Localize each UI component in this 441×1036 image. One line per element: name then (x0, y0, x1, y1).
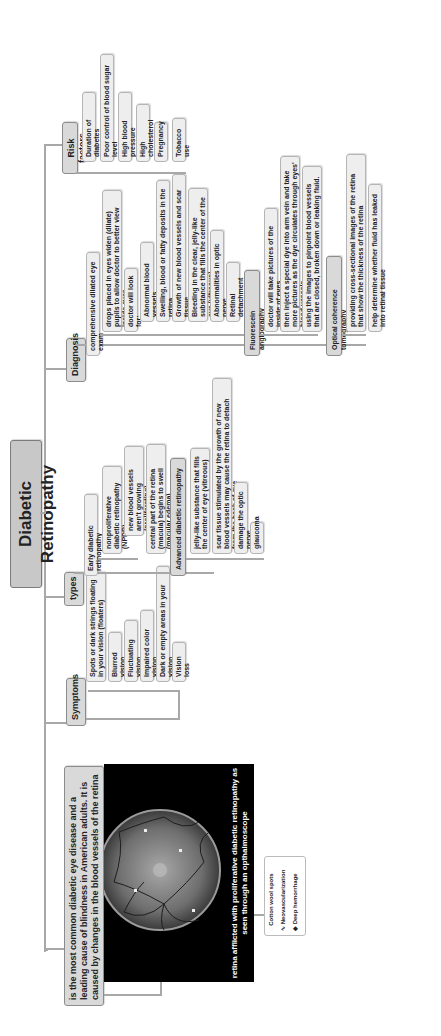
root-node[interactable]: Diabetic Retinopathy (10, 440, 42, 588)
dilated-bleeding[interactable]: Bleeding in the clear, jelly-like substa… (188, 188, 208, 322)
type-early-no-proliferation[interactable]: new blood vessels aren't growing (prolif… (124, 446, 144, 536)
root-connector (40, 512, 46, 514)
symptom-floaters[interactable]: Spots or dark strings floating in your v… (86, 572, 106, 682)
type-advanced-optic-nerve[interactable]: damage the optic nerve (234, 482, 248, 554)
risk-blood-sugar[interactable]: Poor control of blood sugar level (100, 54, 114, 162)
legend-item-deep-hemorrhage: ◆ Deep hemorrhage (289, 857, 301, 935)
type-early-macular-edema[interactable]: central part of the retina (macula) begi… (146, 444, 166, 554)
symptom-vision-loss[interactable]: Vision loss (172, 642, 186, 682)
dilated-drops[interactable]: drops placed in eyes widen (dilate) pupi… (102, 190, 122, 332)
risk-pregnancy[interactable]: Pregnancy (154, 122, 168, 162)
angiography-pinpoint[interactable]: using the images to pinpoint blood vesse… (302, 166, 322, 332)
hemorrhage-icon: ◆ (292, 926, 298, 931)
image-caption: retina afflicted with proliferative diab… (230, 766, 250, 980)
mind-map-canvas: Diabetic Retinopathy is the most common … (0, 0, 441, 1036)
type-advanced[interactable]: Advanced diabetic retinopathy (170, 458, 186, 576)
oct-cross-section[interactable]: providing cross-sectional images of the … (346, 154, 366, 332)
dilated-abnormal-vessels[interactable]: Abnormal blood vessels (140, 242, 154, 322)
dilated-look-for[interactable]: doctor will look for: (124, 268, 138, 332)
risk-blood-pressure[interactable]: High blood pressure (118, 92, 132, 162)
symptom-dark-areas[interactable]: Dark or empty areas in your vision (156, 566, 170, 682)
legend-item-cotton-wool: ◌ Cotton wool spots (265, 857, 277, 935)
type-early[interactable]: Early diabetic retinopathy (84, 494, 98, 576)
dilated-optic-nerve[interactable]: Abnormalities in optic nerve (210, 230, 224, 322)
vessel-icon: ∿ (280, 926, 286, 931)
oct-fluid[interactable]: help determine whether fluid has leaked … (368, 184, 382, 332)
symptom-fluctuating[interactable]: Fluctuating vision (124, 620, 138, 682)
type-early-npdr[interactable]: nonproliferative diabetic retinopathy (N… (102, 466, 122, 554)
definition-connector (44, 948, 64, 950)
angiography-pictures[interactable]: doctor will take pictures of the inside … (264, 208, 278, 332)
risk-tobacco[interactable]: Tobacco use (172, 118, 186, 162)
symptom-blurred[interactable]: Blurred vision (108, 632, 122, 682)
legend-item-neovascularization: ∿ Neovascularization (277, 857, 289, 935)
type-advanced-scar-tissue[interactable]: scar tissue stimulated by the growth of … (212, 378, 232, 554)
image-connector (104, 994, 162, 996)
type-advanced-vitreous[interactable]: jelly-like substance that fills the cent… (190, 448, 210, 554)
symptom-color[interactable]: Impaired color vision (140, 610, 154, 682)
dilated-growth[interactable]: Growth of new blood vessels and scar tis… (172, 174, 186, 322)
image-legend: ◌ Cotton wool spots ∿ Neovascularization… (264, 856, 306, 936)
risk-duration[interactable]: Duration of diabetes (82, 92, 96, 162)
dilated-retinal-detachment[interactable]: Retinal detachment (226, 262, 240, 322)
type-advanced-glaucoma[interactable]: glaucoma (250, 522, 264, 554)
definition-node[interactable]: is the most common diabetic eye disease … (64, 766, 104, 1006)
dilated-swelling[interactable]: Swelling, blood or fatty deposits in the… (156, 180, 170, 322)
diagnosis-angiography[interactable]: Fluorescein angiography (244, 270, 260, 356)
angiography-inject-dye[interactable]: then inject a special dye into arm vein … (280, 156, 300, 332)
risk-factors-node[interactable]: Risk factors (62, 122, 78, 174)
diagnosis-oct[interactable]: Optical coherence tomography (326, 256, 342, 356)
symptoms-node[interactable]: Symptoms (66, 678, 86, 726)
types-node[interactable]: types (64, 572, 84, 606)
risk-cholesterol[interactable]: High cholesterol (136, 104, 150, 162)
cotton-wool-icon: ◌ (268, 927, 274, 931)
diagnosis-dilated-exam[interactable]: comprehensive dilated eye exam (86, 252, 100, 356)
